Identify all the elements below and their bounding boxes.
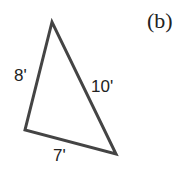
side-label-left: 8' bbox=[14, 67, 27, 84]
side-label-bottom: 7' bbox=[53, 147, 66, 164]
part-label: (b) bbox=[147, 10, 173, 32]
side-label-right: 10' bbox=[91, 78, 113, 95]
